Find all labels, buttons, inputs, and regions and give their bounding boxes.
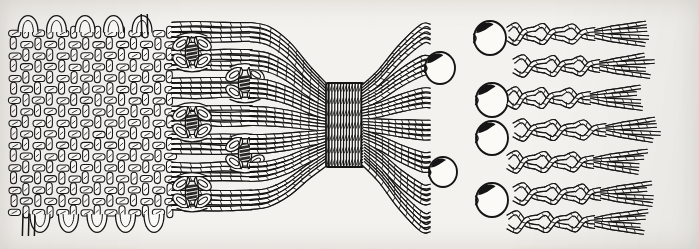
weft-float: [21, 176, 33, 182]
weft-float: [128, 187, 140, 193]
warp-float: [130, 149, 136, 161]
warp-float: [23, 183, 29, 195]
weft-float: [81, 75, 93, 81]
weft-float: [33, 75, 45, 81]
warp-float: [59, 82, 65, 94]
warp-float: [106, 60, 112, 72]
weft-float: [69, 64, 81, 70]
weft-float: [9, 53, 21, 59]
warp-float: [35, 172, 41, 184]
weft-float: [21, 131, 33, 137]
weft-float: [153, 98, 165, 104]
weft-float: [8, 97, 20, 103]
weft-float: [33, 143, 45, 149]
weft-float: [9, 187, 21, 193]
weft-float: [44, 131, 56, 137]
weft-float: [141, 64, 153, 70]
weft-float: [117, 154, 129, 160]
warp-float: [95, 116, 101, 128]
weft-float: [9, 75, 21, 81]
warp-float: [83, 194, 89, 206]
warp-float: [155, 60, 161, 72]
weft-float: [93, 42, 105, 48]
binding-wrap: [326, 83, 364, 167]
warp-float: [35, 127, 41, 139]
weft-float: [153, 142, 165, 148]
weft-float: [44, 176, 56, 182]
warp-float: [83, 37, 89, 49]
weft-float: [141, 154, 153, 160]
warp-float: [167, 206, 173, 218]
weft-float: [57, 53, 69, 59]
weft-float: [69, 87, 81, 93]
weft-float: [45, 41, 57, 47]
weft-float: [21, 42, 33, 48]
warp-float: [83, 149, 89, 161]
weft-float: [93, 154, 105, 160]
weft-float: [93, 109, 105, 115]
weft-float: [81, 120, 93, 126]
warp-float: [130, 194, 136, 206]
bead: [425, 52, 455, 84]
warp-float: [155, 194, 161, 206]
warp-float: [118, 160, 124, 172]
weft-float: [56, 142, 68, 148]
weft-float: [57, 187, 69, 193]
weft-float: [69, 42, 81, 48]
weft-float: [80, 97, 92, 103]
warp-float: [119, 71, 125, 83]
weft-float: [116, 108, 128, 114]
warp-float: [59, 172, 65, 184]
warp-float: [70, 183, 76, 195]
warp-float: [11, 172, 17, 184]
warp-float: [166, 48, 172, 60]
weft-float: [57, 120, 69, 126]
weft-float: [104, 97, 116, 103]
warp-float: [59, 127, 65, 139]
weft-float: [93, 176, 105, 182]
weft-float: [153, 120, 165, 126]
warp-float: [47, 161, 53, 173]
warp-float: [131, 105, 137, 117]
warp-float: [119, 116, 125, 128]
weft-float: [104, 142, 116, 148]
warp-float: [11, 82, 17, 94]
warp-float: [143, 161, 149, 173]
warp-float: [11, 105, 17, 117]
warp-float: [95, 138, 101, 150]
warp-float: [23, 138, 29, 150]
warp-float: [118, 48, 124, 60]
weft-float: [68, 153, 80, 159]
weft-float: [8, 209, 20, 215]
warp-float: [119, 138, 125, 150]
warp-float: [23, 94, 29, 106]
warp-float: [71, 93, 77, 105]
weft-float: [32, 97, 44, 103]
warp-float: [70, 160, 76, 172]
bead: [476, 121, 508, 155]
warp-float: [106, 127, 112, 139]
warp-float: [143, 138, 149, 150]
weft-float: [68, 108, 80, 114]
warp-float: [166, 71, 172, 83]
weft-float: [117, 131, 129, 137]
weft-float: [129, 75, 141, 81]
warp-float: [46, 138, 52, 150]
weft-float: [81, 165, 93, 171]
weft-float: [117, 176, 129, 182]
warp-float: [82, 171, 88, 183]
weft-float: [33, 120, 45, 126]
warp-cord: [172, 190, 252, 195]
weft-float: [104, 52, 116, 58]
weft-float: [104, 75, 116, 81]
warp-float: [35, 60, 41, 72]
warp-float: [95, 94, 101, 106]
warp-float: [71, 71, 77, 83]
weft-float: [128, 53, 140, 59]
weft-float: [153, 53, 165, 59]
warp-float: [155, 150, 161, 162]
bead: [429, 157, 457, 187]
warp-cord: [172, 22, 252, 28]
warp-float: [94, 183, 100, 195]
warp-float: [130, 59, 136, 71]
